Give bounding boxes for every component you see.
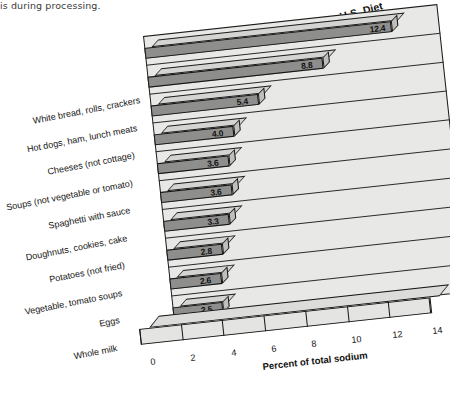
- bar-value-label: 2.8: [200, 246, 212, 257]
- x-axis-tick-label: 8: [311, 339, 317, 349]
- category-label: Eggs: [98, 315, 120, 329]
- category-label: Cheeses (not cottage): [47, 150, 136, 177]
- category-label: Soups (not vegetable or tomato): [5, 178, 133, 212]
- bar-value-label: 3.6: [210, 186, 222, 197]
- category-label: Whole milk: [72, 343, 117, 361]
- category-label: Hot dogs, ham, lunch meats: [26, 123, 138, 154]
- x-axis-tick-label: 6: [271, 343, 277, 353]
- category-label: Vegetable, tomato soups: [24, 288, 123, 317]
- x-axis-tick-label: 4: [231, 348, 237, 358]
- category-label: Potatoes (not fried): [48, 260, 125, 284]
- plot-area: 12.48.85.44.03.63.63.32.82.62.5: [143, 4, 450, 334]
- category-label: White bread, rolls, crackers: [32, 95, 141, 126]
- bar-value-label: 2.6: [199, 275, 211, 286]
- x-axis-tick-label: 0: [150, 356, 156, 366]
- x-axis-tick-label: 2: [190, 352, 196, 362]
- bar-value-label: 8.8: [301, 60, 313, 71]
- bar-value-label: 12.4: [369, 23, 386, 35]
- sodium-contributors-bar-chart: Top Ten Contributors of Sodium in the U.…: [0, 0, 450, 401]
- x-axis-tick-label: 12: [392, 329, 403, 340]
- bar-value-label: 4.0: [211, 128, 223, 139]
- bar-value-label: 3.6: [207, 158, 219, 169]
- category-label: Doughnuts, cookies, cake: [25, 233, 128, 262]
- x-axis-title: Percent of total sodium: [262, 349, 368, 372]
- x-axis-tick-label: 10: [351, 334, 362, 345]
- bar-value-label: 5.4: [236, 96, 248, 107]
- bar-value-label: 3.3: [207, 216, 219, 227]
- category-label: Spaghetti with sauce: [47, 205, 130, 231]
- x-axis-tick-label: 14: [432, 325, 443, 336]
